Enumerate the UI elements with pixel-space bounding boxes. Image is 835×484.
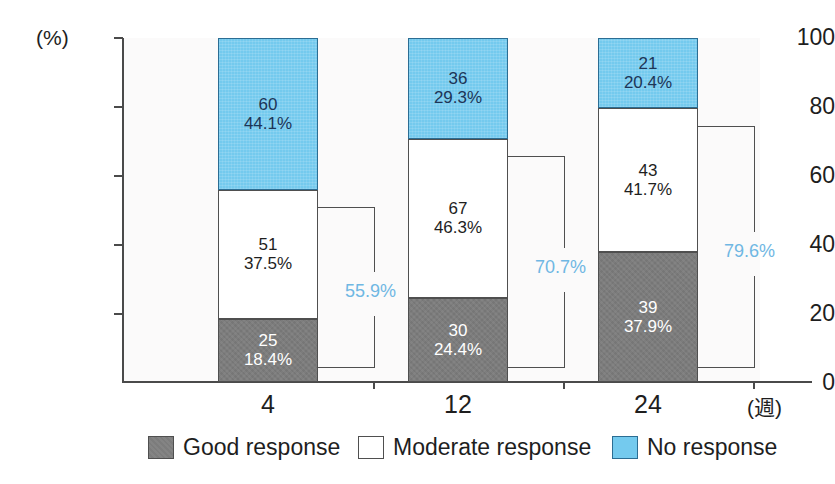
x-tick-label-week-4: 4 [223,390,313,419]
segment-percent: 29.3% [434,88,482,107]
segment-percent: 20.4% [624,73,672,92]
legend: Good response Moderate response No respo… [0,434,835,468]
bar-segment-moderate-response-week-24[interactable]: 43 41.7% [598,108,698,251]
y-tick-80 [114,106,123,108]
segment-count: 36 [449,69,468,88]
bar-segment-no-response-week-4[interactable]: 60 44.1% [218,38,318,190]
y-tick-40 [114,244,123,246]
bracket-label-week-12: 70.7% [535,257,586,278]
x-tick-after-week-4 [373,381,375,389]
y-axis-unit-label: (%) [36,26,69,50]
legend-item-moderate-response[interactable]: Moderate response [358,434,591,461]
x-tick-label-week-24: 24 [603,390,693,419]
legend-item-no-response[interactable]: No response [612,434,777,461]
segment-count: 25 [259,331,278,350]
bar-segment-moderate-response-week-12[interactable]: 67 46.3% [408,139,508,298]
bracket-label-week-4: 55.9% [345,281,396,302]
segment-percent: 37.5% [244,254,292,273]
legend-label-no-response: No response [647,434,777,461]
segment-count: 39 [639,298,658,317]
legend-label-good-response: Good response [183,434,340,461]
segment-percent: 18.4% [244,350,292,369]
segment-percent: 44.1% [244,114,292,133]
segment-percent: 37.9% [624,317,672,336]
y-tick-label-0: 0 [725,369,835,396]
y-tick-label-100: 100 [725,24,835,51]
segment-percent: 24.4% [434,340,482,359]
y-tick-label-80: 80 [725,93,835,120]
segment-count: 43 [639,161,658,180]
legend-item-good-response[interactable]: Good response [148,434,340,461]
bar-segment-good-response-week-4[interactable]: 25 18.4% [218,319,318,382]
segment-count: 21 [639,54,658,73]
white-swatch-icon [358,436,384,459]
bar-segment-good-response-week-12[interactable]: 30 24.4% [408,298,508,382]
segment-count: 51 [259,235,278,254]
segment-count: 67 [449,199,468,218]
x-tick-label-week-12: 12 [413,390,503,419]
bracket-label-week-24: 79.6% [724,241,775,262]
segment-count: 60 [259,95,278,114]
x-tick-after-week-12 [563,381,565,389]
bar-segment-moderate-response-week-4[interactable]: 51 37.5% [218,190,318,319]
y-axis-line [122,38,124,383]
y-tick-100 [114,37,123,39]
stacked-bar-chart: (%) (週) 100 80 60 40 20 0 60 44.1% 51 37… [0,0,835,484]
segment-percent: 41.7% [624,180,672,199]
legend-label-moderate-response: Moderate response [393,434,591,461]
segment-count: 30 [449,321,468,340]
x-tick-after-week-24 [753,381,755,389]
gray-swatch-icon [148,436,174,459]
y-tick-20 [114,313,123,315]
bar-segment-good-response-week-24[interactable]: 39 37.9% [598,252,698,382]
bar-segment-no-response-week-24[interactable]: 21 20.4% [598,38,698,108]
bar-segment-no-response-week-12[interactable]: 36 29.3% [408,38,508,139]
y-tick-60 [114,175,123,177]
segment-percent: 46.3% [434,218,482,237]
blue-swatch-icon [612,436,638,459]
